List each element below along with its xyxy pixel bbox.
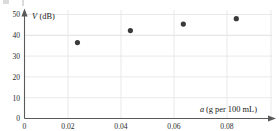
vertical-gridlines [68,10,271,119]
data-point [234,16,239,21]
y-tick-labels: 50 40 30 20 10 0 [12,10,20,123]
scatter-plot-figure: 50 40 30 20 10 0 0 0.02 0.04 0.06 0.08 V… [0,0,279,131]
x-axis-title-units: (g per 100 mL) [206,105,257,114]
y-tick-50: 50 [12,10,20,19]
y-tick-30: 30 [12,52,20,61]
y-axis-title-units: (dB) [40,12,56,21]
data-points [75,16,239,45]
y-axis-title-variable: V [32,12,38,21]
horizontal-gridlines [24,15,272,98]
y-axis-title: V (dB) [32,12,55,21]
x-tick-labels: 0 0.02 0.04 0.06 0.08 [23,122,234,131]
y-tick-0: 0 [16,114,20,123]
chart-canvas: 50 40 30 20 10 0 0 0.02 0.04 0.06 0.08 V… [0,0,279,131]
x-tick-0-06: 0.06 [167,122,180,131]
data-point [75,40,80,45]
data-point [181,22,186,27]
x-axis-title: a (g per 100 mL) [200,105,257,114]
x-tick-0-02: 0.02 [61,122,74,131]
y-axis [21,9,27,119]
y-tick-40: 40 [12,31,20,40]
x-tick-0-04: 0.04 [114,122,127,131]
y-tick-10: 10 [12,94,20,103]
data-point [128,28,133,33]
x-axis-title-variable: a [200,105,204,114]
y-tick-20: 20 [12,73,20,82]
x-tick-0-08: 0.08 [220,122,233,131]
x-tick-0: 0 [23,122,27,131]
